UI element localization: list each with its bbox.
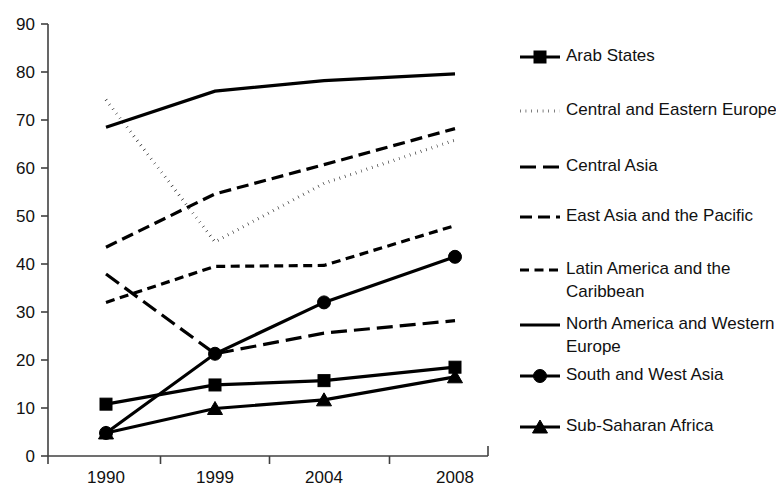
y-tick-label: 40: [16, 255, 35, 274]
legend-label: Arab States: [566, 46, 655, 65]
y-tick-label: 80: [16, 63, 35, 82]
chart-page: 0102030405060708090 1990199920042008 Ara…: [0, 0, 776, 490]
legend-label: East Asia and the Pacific: [566, 206, 754, 225]
data-point-marker-square: [534, 51, 546, 63]
y-tick-label: 20: [16, 351, 35, 370]
y-tick-label: 30: [16, 303, 35, 322]
legend-label: Europe: [566, 337, 621, 356]
legend-label: Sub-Saharan Africa: [566, 416, 714, 435]
legend-label: North America and Western: [566, 314, 775, 333]
data-point-marker-square: [100, 398, 112, 410]
legend-label: South and West Asia: [566, 365, 724, 384]
y-tick-label: 10: [16, 399, 35, 418]
y-tick-label: 0: [26, 447, 35, 466]
data-point-marker-square: [209, 379, 221, 391]
data-point-marker-square: [318, 375, 330, 387]
data-point-marker-circle: [318, 296, 331, 309]
legend-label: Latin America and the: [566, 259, 730, 278]
y-tick-label: 50: [16, 207, 35, 226]
y-tick-label: 60: [16, 159, 35, 178]
y-tick-label: 90: [16, 15, 35, 34]
line-chart: 0102030405060708090 1990199920042008 Ara…: [0, 0, 776, 490]
legend-label: Central and Eastern Europe: [566, 100, 776, 119]
x-tick-label: 1999: [196, 468, 234, 487]
data-point-marker-circle: [209, 347, 222, 360]
data-point-marker-circle: [449, 250, 462, 263]
x-tick-label: 2008: [436, 468, 474, 487]
legend-label: Caribbean: [566, 282, 644, 301]
x-tick-label: 1990: [87, 468, 125, 487]
y-tick-label: 70: [16, 111, 35, 130]
legend-label: Central Asia: [566, 156, 658, 175]
data-point-marker-circle: [534, 370, 547, 383]
x-tick-label: 2004: [305, 468, 343, 487]
